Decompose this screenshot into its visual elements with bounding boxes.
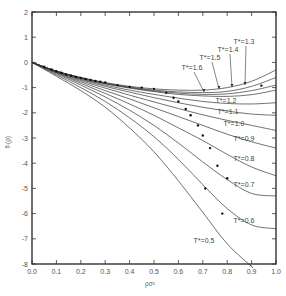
curves-layer (32, 62, 276, 267)
data-point-marker (172, 96, 174, 98)
y-tick-label: -4 (22, 160, 28, 167)
x-tick-label: 0.6 (174, 268, 184, 275)
chart-root: 0.00.10.20.30.40.50.60.70.80.91.0 210-1-… (0, 0, 286, 296)
x-tick-label: 0.4 (125, 268, 135, 275)
y-tick-label: -5 (22, 185, 28, 192)
y-tick-label: -6 (22, 210, 28, 217)
x-tick-label: 0.2 (76, 268, 86, 275)
data-point-marker (84, 78, 86, 80)
curve-label: T*=1.0 (224, 120, 245, 127)
curve-line (32, 62, 276, 196)
y-tick-label: -7 (22, 235, 28, 242)
curve-label: T*=1.2 (216, 97, 237, 104)
label-leader-arrow (230, 54, 232, 87)
curve-line (32, 62, 253, 267)
x-tick-label: 1.0 (271, 268, 281, 275)
data-point-marker (116, 84, 118, 86)
data-point-marker (209, 147, 211, 149)
data-point-marker (65, 73, 67, 75)
x-tick-label: 0.5 (149, 268, 159, 275)
data-point-marker (177, 100, 179, 102)
data-point-marker (80, 77, 82, 79)
curve-label: T*=0.6 (234, 217, 255, 224)
data-point-marker (141, 86, 143, 88)
data-point-marker (216, 165, 218, 167)
y-tick-label: 1 (24, 34, 28, 41)
y-axis-title: f¹(ρ) (4, 136, 12, 148)
x-axis: 0.00.10.20.30.40.50.60.70.80.91.0 (27, 12, 281, 275)
data-point-marker (60, 72, 62, 74)
y-tick-label: 0 (24, 59, 28, 66)
data-point-marker (226, 177, 228, 179)
y-tick-label: -3 (22, 135, 28, 142)
data-point-marker (55, 70, 57, 72)
data-point-marker (153, 88, 155, 90)
label-leader-arrow (245, 46, 246, 85)
y-tick-label: -2 (22, 109, 28, 116)
x-tick-label: 0.7 (198, 268, 208, 275)
data-point-marker (189, 114, 191, 116)
y-tick-label: 2 (24, 9, 28, 16)
curve-label: T*=0.9 (234, 135, 255, 142)
data-point-marker (89, 79, 91, 81)
curve-label: T*=1.5 (200, 54, 221, 61)
y-tick-label: -8 (22, 261, 28, 268)
data-point-marker (202, 134, 204, 136)
curve-label: T*=1.3 (234, 38, 255, 45)
data-point-marker (221, 212, 223, 214)
data-point-marker (204, 187, 206, 189)
data-point-marker (75, 76, 77, 78)
data-point-marker (50, 68, 52, 70)
x-tick-label: 0.8 (222, 268, 232, 275)
data-point-marker (70, 75, 72, 77)
curve-label: T*=1.4 (218, 46, 239, 53)
data-point-marker (99, 81, 101, 83)
data-point-marker (185, 108, 187, 110)
data-point-marker (43, 65, 45, 67)
x-tick-label: 0.3 (100, 268, 110, 275)
x-tick-label: 0.1 (52, 268, 62, 275)
data-point-marker (260, 84, 262, 86)
curve-line (32, 62, 276, 228)
curve-label: T*=0.7 (234, 181, 255, 188)
curve-label: T*=0.8 (234, 155, 255, 162)
data-point-marker (165, 91, 167, 93)
data-point-marker (94, 80, 96, 82)
curve-labels: T*=1.3T*=1.4T*=1.5T*=1.6T*=1.2T*=1.1T*=1… (182, 38, 255, 244)
x-axis-title: ρσ³ (145, 280, 156, 288)
curve-label: T*=1.6 (182, 64, 203, 71)
curve-label: T*=1.1 (218, 108, 239, 115)
data-point-marker (128, 86, 130, 88)
data-point-marker (197, 124, 199, 126)
data-point-marker (104, 81, 106, 83)
x-tick-label: 0.0 (27, 268, 37, 275)
y-tick-label: -1 (22, 84, 28, 91)
label-leader-arrow (212, 62, 219, 89)
curve-label: T*=0.5 (194, 237, 215, 244)
x-tick-label: 0.9 (247, 268, 257, 275)
